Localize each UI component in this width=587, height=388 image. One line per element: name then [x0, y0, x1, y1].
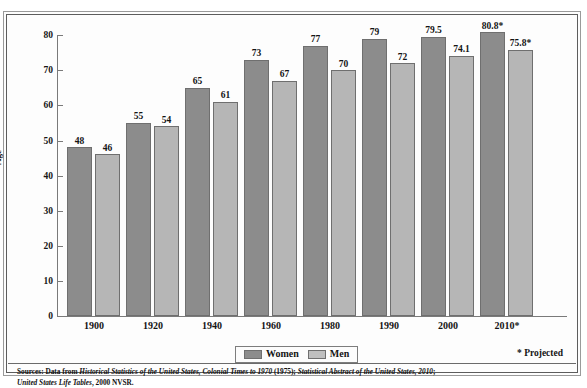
bar-men-1990[interactable]: 72	[390, 63, 415, 316]
bar-label-women-1960: 73	[252, 49, 262, 59]
y-tick-label-10: 10	[17, 277, 53, 287]
x-tick-label-1990: 1990	[379, 320, 399, 331]
bar-women-1980[interactable]: 77	[303, 46, 328, 317]
y-tick-80	[58, 35, 63, 36]
bar-label-men-2000: 74.1	[453, 45, 470, 55]
bar-men-1960[interactable]: 67	[272, 81, 297, 316]
x-tick-label-2010: 2010*	[495, 320, 520, 331]
y-tick-label-80: 80	[17, 31, 53, 41]
bar-women-1940[interactable]: 65	[185, 88, 210, 316]
bar-label-men-1980: 70	[339, 60, 349, 70]
source-line-1: Sources: Data from Historical Statistics…	[17, 367, 567, 378]
bar-label-women-1980: 77	[311, 35, 321, 45]
y-tick-10	[58, 281, 63, 282]
y-tick-40	[58, 176, 63, 177]
bar-label-women-1900: 48	[75, 137, 85, 147]
chart-figure: Age 80 70 60 50 40 30 20 10 0 48 46	[3, 11, 581, 376]
source-line2-italic: United States Life Tables	[17, 378, 92, 387]
source-line1-mid: (1975);	[272, 367, 298, 376]
bar-men-1980[interactable]: 70	[331, 70, 356, 316]
y-tick-label-20: 20	[17, 242, 53, 252]
x-tick-label-1940: 1940	[202, 320, 222, 331]
source-separator	[8, 363, 576, 364]
legend-item-men[interactable]: Men	[308, 349, 349, 359]
bar-label-men-2010: 75.8*	[510, 39, 531, 49]
projected-footnote: * Projected	[517, 348, 563, 358]
clipped-caption-strip	[0, 0, 587, 9]
bar-women-1990[interactable]: 79	[362, 39, 387, 317]
legend-label-women: Women	[266, 349, 299, 359]
source-line1-prefix: Sources: Data from	[17, 367, 79, 376]
y-tick-70	[58, 70, 63, 71]
y-tick-60	[58, 105, 63, 106]
bar-men-1940[interactable]: 61	[213, 102, 238, 316]
bar-label-women-1920: 55	[134, 112, 144, 122]
chart-legend: Women Men	[235, 346, 358, 363]
bar-label-men-1920: 54	[162, 116, 172, 126]
y-tick-0	[58, 316, 63, 317]
x-tick-label-1900: 1900	[84, 320, 104, 331]
bar-men-2000[interactable]: 74.1	[449, 56, 474, 316]
bar-women-1920[interactable]: 55	[126, 123, 151, 316]
x-tick-label-2000: 2000	[438, 320, 458, 331]
legend-item-women[interactable]: Women	[244, 349, 299, 359]
legend-swatch-women-icon	[244, 350, 262, 359]
y-tick-30	[58, 211, 63, 212]
bar-men-1920[interactable]: 54	[154, 126, 179, 316]
bar-women-1900[interactable]: 48	[67, 147, 92, 316]
bar-women-2000[interactable]: 79.5	[421, 37, 446, 316]
bar-label-women-1940: 65	[193, 77, 203, 87]
bar-men-1900[interactable]: 46	[95, 154, 120, 316]
y-tick-label-50: 50	[17, 137, 53, 147]
chart-figure-inner-border: Age 80 70 60 50 40 30 20 10 0 48 46	[6, 14, 578, 373]
source-line1-italic2: Statistical Abstract of the United State…	[298, 367, 433, 376]
y-tick-label-70: 70	[17, 66, 53, 76]
y-tick-20	[58, 246, 63, 247]
source-line1-italic1: Historical Statistics of the United Stat…	[79, 367, 272, 376]
x-tick-label-1960: 1960	[261, 320, 281, 331]
source-note: Sources: Data from Historical Statistics…	[17, 367, 567, 388]
bar-label-men-1900: 46	[103, 144, 113, 154]
y-tick-50	[58, 141, 63, 142]
bar-label-women-2000: 79.5	[425, 26, 442, 36]
bar-label-women-1990: 79	[370, 28, 380, 38]
source-line2-suffix: , 2000 NVSR.	[92, 378, 134, 387]
bar-women-2010[interactable]: 80.8*	[480, 32, 505, 316]
source-line1-suffix: ;	[433, 367, 435, 376]
bar-label-men-1940: 61	[221, 91, 231, 101]
source-line-2: United States Life Tables, 2000 NVSR.	[17, 378, 567, 388]
x-tick-label-1920: 1920	[143, 320, 163, 331]
x-tick-label-1980: 1980	[320, 320, 340, 331]
bar-label-men-1990: 72	[398, 53, 408, 63]
legend-label-men: Men	[330, 349, 349, 359]
y-tick-label-60: 60	[17, 101, 53, 111]
bar-label-men-1960: 67	[280, 70, 290, 80]
bar-men-2010[interactable]: 75.8*	[508, 50, 533, 316]
legend-swatch-men-icon	[308, 350, 326, 359]
bar-label-women-2010: 80.8*	[482, 22, 503, 32]
y-tick-label-0: 0	[17, 312, 53, 322]
x-axis-baseline	[57, 316, 567, 317]
y-tick-label-30: 30	[17, 207, 53, 217]
bar-women-1960[interactable]: 73	[244, 60, 269, 316]
y-tick-label-40: 40	[17, 172, 53, 182]
y-axis-title: Age	[0, 150, 3, 165]
